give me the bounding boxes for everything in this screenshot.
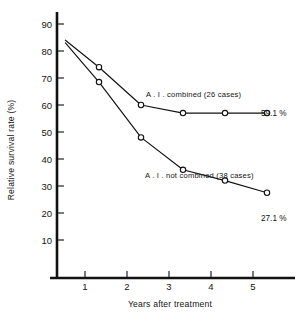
data-point-marker [180,110,185,115]
series-annotation-ai-combined: A . I . combined (26 cases) [146,90,242,99]
y-tick-label-30: 30 [41,181,52,192]
x-tick-label-4: 4 [208,281,213,292]
y-axis-tick-labels: 90 80 70 60 50 40 30 20 10 [41,19,52,246]
chart-canvas: 90 80 70 60 50 40 30 20 10 1 2 3 4 5 [0,0,301,323]
y-tick-label-40: 40 [41,154,52,165]
data-point-marker [96,79,101,84]
endpoint-label-ai-not-combined: 27.1 % [261,214,287,223]
data-point-marker [264,190,269,195]
x-tick-label-5: 5 [250,281,255,292]
y-tick-label-70: 70 [41,73,52,84]
series-annotation-ai-not-combined: A . I . not combined (38 cases) [145,171,254,180]
data-point-marker [96,65,101,70]
y-tick-label-50: 50 [41,127,52,138]
y-tick-label-20: 20 [41,208,52,219]
x-tick-label-3: 3 [166,281,171,292]
endpoint-label-ai-combined: 59.1 % [261,109,287,118]
y-tick-label-80: 80 [41,46,52,57]
x-axis-tick-labels: 1 2 3 4 5 [82,281,255,292]
data-point-marker [138,135,143,140]
series-line-ai-combined [65,40,267,113]
data-point-marker [138,102,143,107]
survival-chart: 90 80 70 60 50 40 30 20 10 1 2 3 4 5 [0,0,301,323]
x-axis-title: Years after treatment [128,299,213,309]
x-tick-label-1: 1 [82,281,87,292]
y-tick-label-60: 60 [41,100,52,111]
x-tick-label-2: 2 [124,281,129,292]
y-tick-label-90: 90 [41,19,52,30]
data-point-marker [222,110,227,115]
axes [50,12,295,278]
y-axis-title: Relative survival rate (%) [6,100,16,201]
y-tick-label-10: 10 [41,235,52,246]
